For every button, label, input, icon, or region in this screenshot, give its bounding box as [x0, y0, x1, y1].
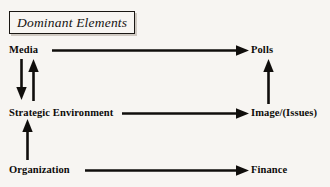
arrow-strategic-environment-to-image-issues	[122, 108, 249, 119]
diagram-title-text: Dominant Elements	[17, 15, 127, 30]
node-strategic-environment: Strategic Environment	[9, 108, 113, 119]
node-media: Media	[9, 45, 38, 56]
node-finance: Finance	[251, 165, 287, 176]
arrow-media-to-strategic-environment	[16, 59, 26, 100]
node-image-issues: Image/(Issues)	[251, 108, 317, 119]
node-organization: Organization	[9, 165, 70, 176]
node-polls: Polls	[251, 45, 273, 56]
arrow-media-to-polls	[52, 45, 249, 56]
diagram-title-box: Dominant Elements	[9, 11, 135, 34]
arrow-strategic-environment-to-media	[28, 59, 38, 101]
arrow-organization-to-finance	[85, 165, 249, 176]
dominant-elements-diagram: Dominant Elements	[0, 0, 330, 187]
arrow-image-issues-to-polls	[263, 59, 273, 104]
arrow-organization-to-strategic-environment	[22, 119, 32, 160]
